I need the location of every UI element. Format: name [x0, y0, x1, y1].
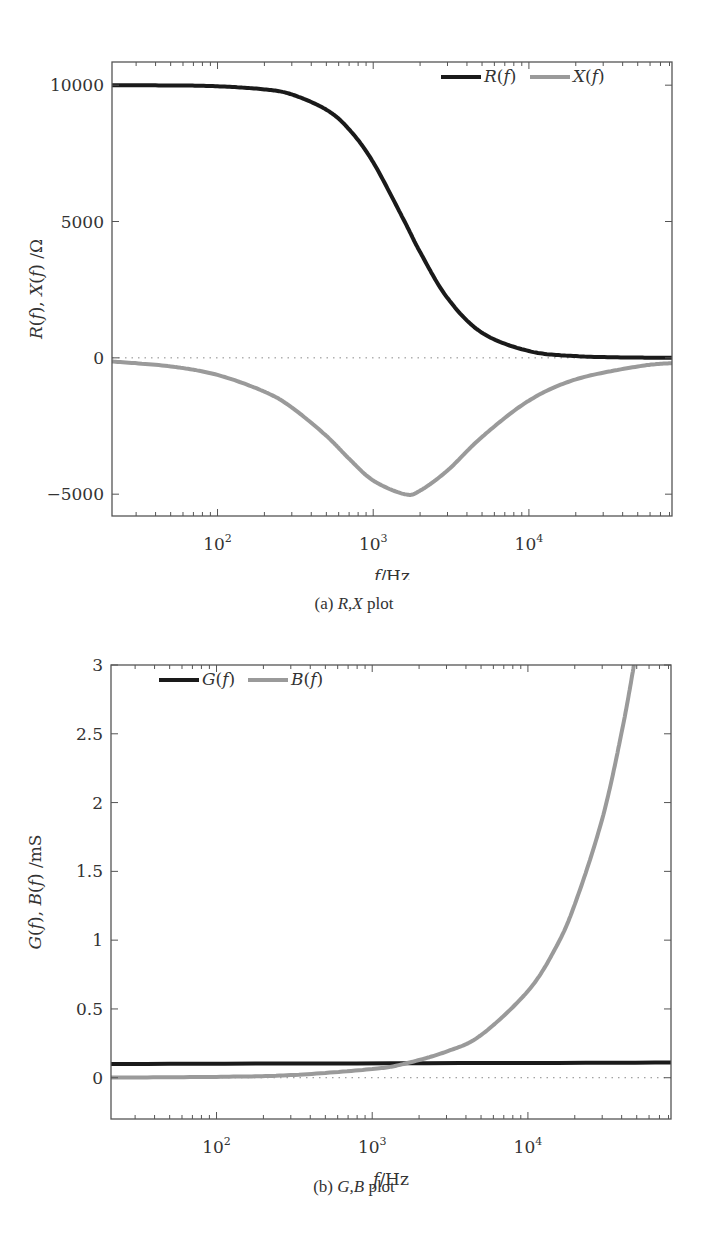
x-tick-label: 103	[358, 1135, 387, 1157]
y-axis-label: G(f), B(f) /mS	[25, 835, 45, 950]
x-tick-label: 103	[359, 532, 388, 554]
legend-label: G(f)	[202, 669, 235, 689]
x-tick-label: 104	[514, 1135, 543, 1157]
legend: G(f)B(f)	[159, 669, 323, 689]
caption-a: (a) R,X plot	[0, 594, 708, 614]
caption-b-label: (b)	[313, 1177, 333, 1196]
series-line-xf	[112, 361, 672, 495]
y-tick-label: 0	[93, 348, 104, 368]
rx-chart: 102103104f/Hz1000050000−5000R(f), X(f) /…	[0, 0, 708, 580]
y-axis: 1000050000−5000R(f), X(f) /Ω	[26, 75, 672, 504]
y-tick-label: 1.5	[76, 861, 103, 881]
axes-frame	[111, 665, 671, 1119]
y-tick-label: 1	[92, 930, 103, 950]
y-tick-label: 2.5	[76, 724, 103, 744]
y-tick-label: 5000	[61, 212, 104, 232]
y-axis-label: R(f), X(f) /Ω	[26, 239, 46, 340]
series-line-gf	[111, 1063, 671, 1064]
series-line-rf	[112, 85, 672, 358]
axes-frame	[112, 62, 672, 516]
x-axis: 102103104f/Hz	[136, 62, 669, 580]
plot-area	[111, 665, 671, 1078]
caption-a-suffix: plot	[367, 594, 393, 613]
x-axis-label: f/Hz	[372, 566, 410, 580]
x-tick-label: 104	[515, 532, 544, 554]
caption-a-label: (a)	[315, 594, 334, 613]
x-tick-label: 102	[203, 532, 232, 554]
plot-area	[112, 85, 672, 495]
legend-label: X(f)	[571, 66, 605, 86]
figure-b: 102103104f/Hz32.521.510.50G(f), B(f) /mS…	[0, 620, 708, 1220]
y-tick-label: 3	[92, 655, 103, 675]
y-tick-label: −5000	[46, 484, 104, 504]
y-tick-label: 0.5	[76, 999, 103, 1019]
figure-a: 102103104f/Hz1000050000−5000R(f), X(f) /…	[0, 0, 708, 620]
x-axis: 102103104f/Hz	[135, 665, 668, 1189]
y-tick-label: 2	[92, 793, 103, 813]
legend-label: R(f)	[483, 66, 516, 86]
caption-b-math: G,B	[337, 1177, 364, 1196]
x-tick-label: 102	[202, 1135, 231, 1157]
caption-a-math: R,X	[338, 594, 363, 613]
series-line-bf	[111, 665, 634, 1078]
gb-chart: 102103104f/Hz32.521.510.50G(f), B(f) /mS…	[0, 620, 708, 1200]
legend: R(f)X(f)	[441, 66, 605, 86]
y-axis: 32.521.510.50G(f), B(f) /mS	[25, 655, 671, 1088]
y-tick-label: 10000	[50, 75, 104, 95]
caption-b: (b) G,B plot	[0, 1177, 708, 1197]
caption-b-suffix: plot	[368, 1177, 394, 1196]
y-tick-label: 0	[92, 1068, 103, 1088]
legend-label: B(f)	[290, 669, 323, 689]
